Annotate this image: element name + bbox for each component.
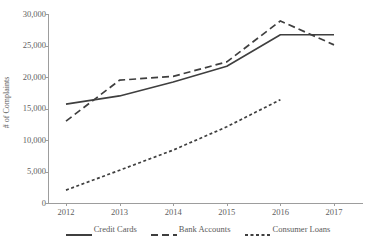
solid-line-swatch	[66, 225, 92, 233]
plot-area	[48, 14, 363, 203]
x-axis-tick-mark	[227, 203, 228, 206]
x-axis-tick-label: 2012	[58, 207, 75, 217]
dashed-line-swatch	[151, 225, 177, 233]
y-axis-tick-labels: 05,00010,00015,00020,00025,00030,000	[10, 0, 48, 239]
legend-item[interactable]: Consumer Loans	[245, 225, 331, 234]
legend-label: Credit Cards	[94, 225, 137, 234]
x-axis-tick-label: 2016	[272, 207, 289, 217]
x-axis-tick-mark	[120, 203, 121, 206]
legend-item[interactable]: Credit Cards	[66, 225, 137, 234]
series-lines	[48, 14, 363, 203]
y-axis-tick-label: 15,000	[8, 104, 46, 113]
y-axis-tick-mark	[45, 14, 48, 15]
y-axis-tick-label: 10,000	[8, 136, 46, 145]
legend-item[interactable]: Bank Accounts	[151, 225, 231, 234]
line-chart: # of Complaints 05,00010,00015,00020,000…	[0, 0, 369, 239]
y-axis-tick-mark	[45, 172, 48, 173]
y-axis-tick-mark	[45, 203, 48, 204]
x-axis-tick-mark	[66, 203, 67, 206]
x-axis-tick-mark	[173, 203, 174, 206]
y-axis-tick-label: 0	[8, 199, 46, 208]
y-axis-tick-mark	[45, 77, 48, 78]
y-axis-tick-mark	[45, 140, 48, 141]
y-axis-tick-label: 30,000	[8, 10, 46, 19]
x-axis-tick-label: 2013	[111, 207, 128, 217]
x-axis-tick-mark	[334, 203, 335, 206]
x-axis-tick-label: 2015	[218, 207, 235, 217]
x-axis-line	[48, 203, 363, 204]
y-axis-tick-label: 5,000	[8, 167, 46, 176]
x-axis-tick-mark	[280, 203, 281, 206]
series-line	[66, 21, 334, 121]
x-axis-tick-label: 2017	[326, 207, 343, 217]
legend-label: Consumer Loans	[273, 225, 331, 234]
series-line	[66, 100, 280, 190]
dotted-line-swatch	[245, 225, 271, 233]
x-axis-tick-label: 2014	[165, 207, 182, 217]
y-axis-tick-mark	[45, 46, 48, 47]
chart-legend: Credit CardsBank AccountsConsumer Loans	[48, 222, 348, 236]
y-axis-tick-label: 20,000	[8, 73, 46, 82]
legend-label: Bank Accounts	[179, 225, 231, 234]
y-axis-tick-mark	[45, 109, 48, 110]
x-axis-tick-labels: 201220132014201520162017	[48, 207, 363, 219]
y-axis-tick-label: 25,000	[8, 41, 46, 50]
